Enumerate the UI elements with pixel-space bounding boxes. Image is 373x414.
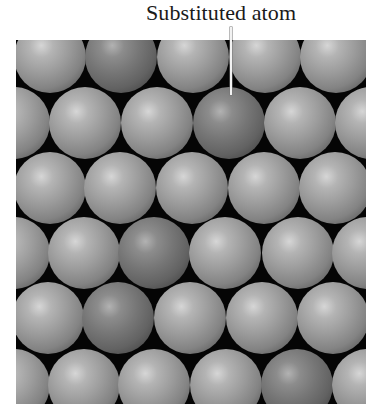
host-atom [189,217,261,289]
host-atom [299,152,366,224]
host-atom [332,217,366,289]
host-atom [49,87,121,159]
atom-lattice-frame [16,40,366,404]
host-atom [16,217,50,289]
substituted-atom [85,40,157,93]
leader-line [230,27,232,95]
host-atom [48,217,120,289]
host-atom [300,40,366,93]
host-atom [16,282,84,354]
host-atom [262,217,334,289]
host-atom [16,40,86,93]
host-atom [297,282,366,354]
host-atom [16,87,50,159]
host-atom [332,349,366,404]
host-atom [190,349,262,404]
host-atom [228,152,300,224]
host-atom [121,87,193,159]
host-atom [264,87,336,159]
substituted-atom [261,349,333,404]
host-atom [226,282,298,354]
substituted-atom [118,217,190,289]
substituted-atom-label: Substituted atom [146,0,322,26]
host-atom [229,40,301,93]
host-atom [156,152,228,224]
substituted-atom [193,87,265,159]
host-atom [84,152,156,224]
host-atom [157,40,229,93]
host-atom [154,282,226,354]
host-atom [48,349,120,404]
host-atom [118,349,190,404]
host-atom [16,152,86,224]
substituted-atom [82,282,154,354]
host-atom [335,87,366,159]
host-atom [16,349,50,404]
